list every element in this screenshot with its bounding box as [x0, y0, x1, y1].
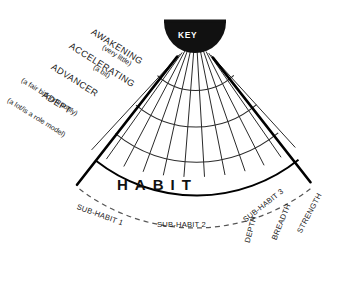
- radial-grid-lines: [92, 49, 296, 177]
- sub-habit-label-2: SUB-HABIT 2: [157, 220, 206, 229]
- key-label: KEY: [178, 30, 197, 40]
- habit-title: HABIT: [117, 176, 198, 193]
- habit-fan-diagram: KEY HABIT AWAKENING (very little) ACCELE…: [0, 0, 351, 285]
- fan-graphic: [0, 0, 351, 285]
